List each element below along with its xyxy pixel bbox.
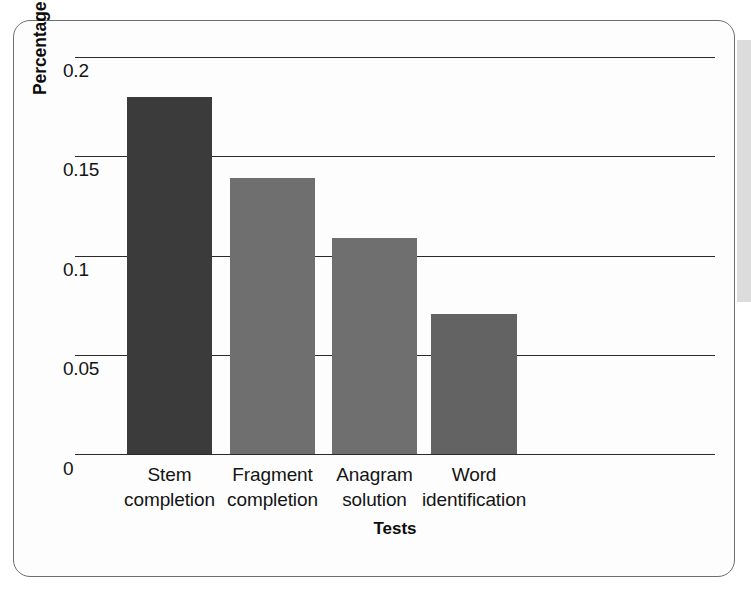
y-axis-title: Percentage improvement over control bbox=[30, 0, 51, 95]
y-tick-label: 0.15 bbox=[63, 159, 99, 181]
plot-area bbox=[75, 47, 715, 455]
bar-chart: Percentage improvement over control 00.0… bbox=[0, 0, 751, 590]
x-axis-line bbox=[75, 454, 715, 455]
x-category-label: Wordidentification bbox=[396, 462, 552, 512]
bar bbox=[127, 97, 212, 455]
y-tick-label: 0.1 bbox=[63, 259, 89, 281]
y-tick-label: 0 bbox=[63, 458, 73, 480]
y-tick-label: 0.2 bbox=[63, 60, 89, 82]
y-tick-label: 0.05 bbox=[63, 358, 99, 380]
x-category-label-line: Word bbox=[396, 462, 552, 487]
x-axis-title: Tests bbox=[75, 519, 715, 539]
gridline bbox=[75, 57, 715, 58]
y-axis-title-container: Percentage improvement over control bbox=[38, 55, 62, 455]
bar bbox=[332, 238, 417, 455]
bar bbox=[431, 314, 517, 455]
x-category-label-line: identification bbox=[396, 487, 552, 512]
bar bbox=[230, 178, 315, 455]
